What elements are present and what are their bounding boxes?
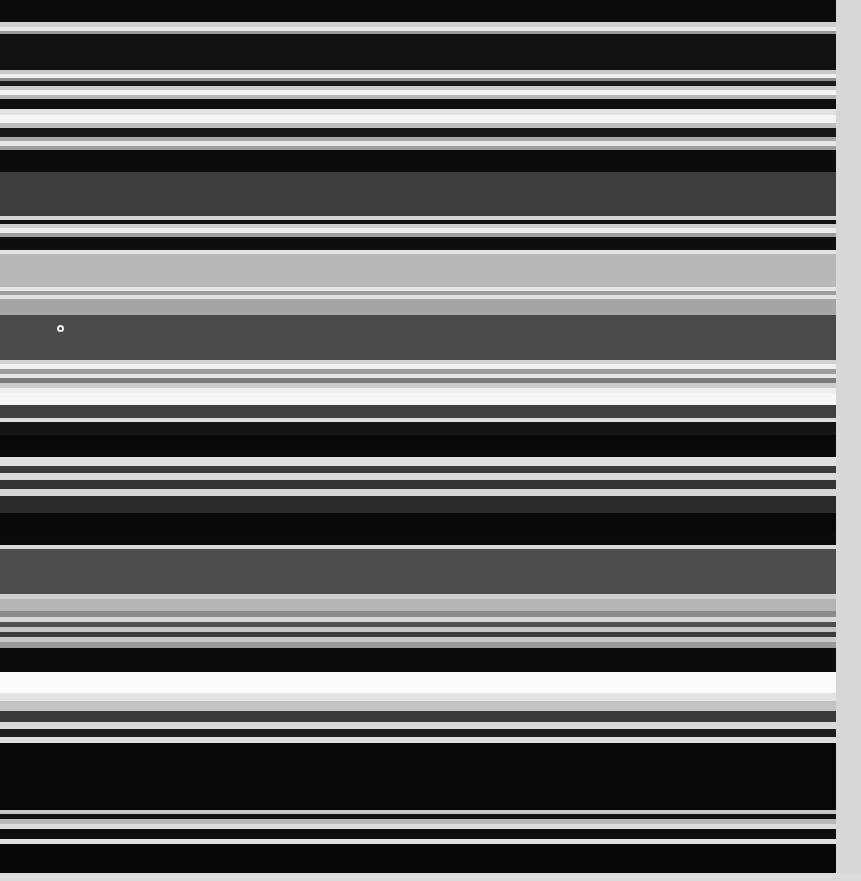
blur-band (0, 729, 836, 737)
blur-band (0, 599, 836, 611)
blur-band (0, 701, 836, 711)
blur-band (0, 457, 836, 466)
blur-band (0, 405, 836, 418)
blur-band (0, 496, 836, 513)
blur-band (0, 829, 836, 839)
blur-band (0, 489, 836, 496)
blur-band (0, 34, 836, 70)
bottom-edge-strip (0, 873, 861, 881)
blur-band (0, 315, 836, 360)
blur-band (0, 254, 836, 287)
blur-band (0, 672, 836, 693)
blur-band (0, 0, 836, 22)
blur-band (0, 115, 836, 123)
blur-band (0, 299, 836, 315)
page-gutter-strip (836, 0, 861, 881)
blur-band (0, 722, 836, 729)
blur-band (0, 237, 836, 250)
blur-band (0, 844, 836, 873)
blur-band (0, 549, 836, 594)
blur-band (0, 172, 836, 216)
blur-band (0, 711, 836, 722)
blur-band (0, 480, 836, 489)
blurred-content-column (0, 0, 836, 881)
blur-band (0, 435, 836, 457)
blur-band (0, 513, 836, 533)
blur-band (0, 128, 836, 137)
blur-band (0, 422, 836, 435)
blur-band (0, 99, 836, 109)
blur-band (0, 393, 836, 405)
blur-band (0, 466, 836, 473)
blur-band (0, 473, 836, 480)
bullet-dot-marker (57, 325, 64, 332)
blur-band (0, 743, 836, 810)
blur-band (0, 150, 836, 172)
blur-band (0, 533, 836, 545)
blur-band (0, 693, 836, 701)
screenshot-canvas (0, 0, 861, 881)
blur-band (0, 648, 836, 672)
